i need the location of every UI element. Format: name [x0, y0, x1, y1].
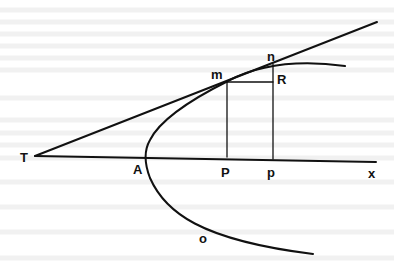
label-n: n [267, 49, 275, 64]
label-P: P [221, 165, 230, 180]
label-p: p [267, 165, 275, 180]
label-x: x [368, 166, 376, 181]
label-A: A [133, 162, 143, 177]
label-T: T [20, 150, 28, 165]
label-m: m [211, 67, 223, 82]
parabola-tangent-diagram: T A P p x m n R o [0, 0, 394, 273]
label-o: o [199, 231, 207, 246]
background-text-bleed [0, 10, 394, 258]
tangent-line [35, 22, 377, 156]
label-R: R [277, 72, 287, 87]
